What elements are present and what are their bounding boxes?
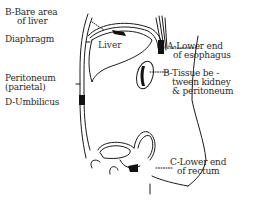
bare-area-label-line2: of liver (17, 17, 47, 26)
umbilicus-label: D-Umbilicus (5, 98, 59, 107)
kidney-tissue-label-line3: & peritoneum (172, 87, 233, 96)
diaphragm-label: Diaphragm (5, 35, 54, 44)
diagram-canvas: Liver B-Bare area of liver Diaphragm Per… (0, 0, 258, 203)
esophagus-label-line2: of esophagus (173, 51, 231, 60)
rectum-label-line2: of rectum (177, 167, 219, 176)
liver-label: Liver (98, 40, 122, 50)
peritoneum-label-line2: (parietal) (5, 83, 46, 92)
